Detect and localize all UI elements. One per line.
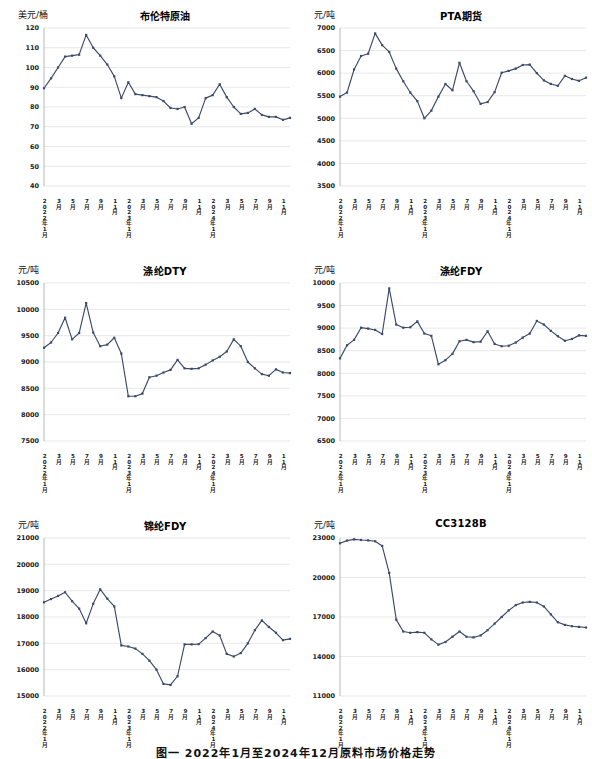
- data-point-marker: [430, 110, 432, 112]
- data-point-marker: [451, 89, 453, 91]
- x-tick-label: 3月: [520, 453, 526, 464]
- x-tick-label: 7月: [83, 198, 89, 209]
- data-point-marker: [571, 78, 573, 80]
- y-tick-label: 10000: [312, 279, 335, 287]
- y-tick-label: 70: [30, 123, 40, 131]
- x-tick-label: 11月: [492, 453, 498, 470]
- x-tick-label: 11月: [196, 198, 202, 215]
- y-tick-label: 9000: [317, 324, 336, 332]
- x-tick-label: 3月: [140, 198, 146, 209]
- y-tick-label: 7000: [317, 24, 336, 32]
- data-point-marker: [155, 669, 157, 671]
- data-point-marker: [57, 66, 59, 68]
- x-axis-tick-labels: 2022年1月3月5月7月9月11月2023年1月3月5月7月9月11月2024…: [296, 453, 592, 510]
- x-tick-label: 2024年1月: [210, 708, 216, 747]
- x-tick-label: 2022年1月: [337, 453, 343, 492]
- data-point-marker: [64, 56, 66, 58]
- data-point-marker: [494, 622, 496, 624]
- x-tick-label: 11月: [492, 708, 498, 725]
- x-tick-label: 9月: [266, 708, 272, 719]
- x-tick-label: 2024年1月: [506, 453, 512, 492]
- y-tick-label: 8500: [317, 347, 336, 355]
- x-tick-label: 7月: [168, 198, 174, 209]
- x-tick-label: 2023年1月: [422, 198, 428, 237]
- y-tick-label: 9000: [21, 358, 40, 366]
- x-tick-label: 11月: [407, 453, 413, 470]
- data-point-marker: [367, 327, 369, 329]
- data-point-marker: [444, 359, 446, 361]
- data-point-marker: [564, 75, 566, 77]
- y-tick-label: 4000: [317, 160, 336, 168]
- data-point-marker: [205, 637, 207, 639]
- x-tick-label: 5月: [450, 198, 456, 209]
- data-point-marker: [522, 337, 524, 339]
- data-point-marker: [268, 116, 270, 118]
- x-tick-label: 11月: [111, 453, 117, 470]
- data-point-marker: [233, 655, 235, 657]
- x-tick-label: 9月: [97, 453, 103, 464]
- data-point-marker: [176, 675, 178, 677]
- x-tick-label: 5月: [534, 708, 540, 719]
- x-tick-label: 11月: [280, 708, 286, 725]
- data-point-marker: [430, 335, 432, 337]
- data-point-marker: [458, 630, 460, 632]
- data-point-marker: [162, 100, 164, 102]
- data-point-marker: [113, 605, 115, 607]
- x-tick-label: 11月: [407, 198, 413, 215]
- x-tick-label: 3月: [520, 708, 526, 719]
- data-point-marker: [536, 320, 538, 322]
- data-point-marker: [508, 70, 510, 72]
- x-tick-label: 9月: [266, 198, 272, 209]
- y-tick-label: 10000: [16, 306, 39, 314]
- x-tick-label: 3月: [436, 708, 442, 719]
- x-tick-label: 9月: [97, 198, 103, 209]
- data-point-marker: [367, 53, 369, 55]
- x-tick-label: 5月: [534, 198, 540, 209]
- x-tick-label: 7月: [464, 198, 470, 209]
- data-point-marker: [409, 632, 411, 634]
- data-point-marker: [374, 540, 376, 542]
- data-point-marker: [508, 345, 510, 347]
- data-point-marker: [522, 64, 524, 66]
- data-point-marker: [395, 619, 397, 621]
- x-tick-label: 7月: [548, 198, 554, 209]
- data-point-marker: [233, 338, 235, 340]
- data-point-marker: [374, 32, 376, 34]
- plot-area: 15000160001700018000190002000021000: [0, 530, 296, 710]
- data-point-marker: [416, 631, 418, 633]
- y-tick-label: 6000: [317, 69, 336, 77]
- data-point-marker: [219, 83, 221, 85]
- y-tick-label: 7500: [21, 437, 40, 445]
- data-point-marker: [240, 345, 242, 347]
- data-point-marker: [57, 332, 59, 334]
- data-point-marker: [99, 55, 101, 57]
- data-point-marker: [85, 622, 87, 624]
- data-point-marker: [247, 642, 249, 644]
- data-point-marker: [360, 55, 362, 57]
- data-point-marker: [198, 367, 200, 369]
- data-point-marker: [515, 604, 517, 606]
- chart-panel-6: 元/吨CC3128B11000140001700020000230002022年…: [296, 510, 592, 759]
- data-point-marker: [247, 361, 249, 363]
- x-tick-label: 3月: [55, 708, 61, 719]
- x-tick-label: 7月: [379, 708, 385, 719]
- data-point-marker: [472, 90, 474, 92]
- data-point-marker: [360, 539, 362, 541]
- x-tick-label: 2023年1月: [422, 453, 428, 492]
- data-point-marker: [437, 363, 439, 365]
- y-tick-label: 5500: [317, 92, 336, 100]
- x-tick-label: 9月: [182, 453, 188, 464]
- x-tick-label: 9月: [562, 708, 568, 719]
- data-series-line: [340, 288, 586, 364]
- y-tick-label: 23000: [312, 534, 335, 542]
- data-point-marker: [191, 368, 193, 370]
- data-point-marker: [106, 344, 108, 346]
- x-tick-label: 11月: [111, 198, 117, 215]
- x-tick-label: 9月: [478, 708, 484, 719]
- data-point-marker: [437, 96, 439, 98]
- data-series-line: [340, 33, 586, 118]
- x-tick-label: 7月: [379, 453, 385, 464]
- x-tick-label: 11月: [280, 453, 286, 470]
- data-point-marker: [543, 79, 545, 81]
- data-point-marker: [169, 107, 171, 109]
